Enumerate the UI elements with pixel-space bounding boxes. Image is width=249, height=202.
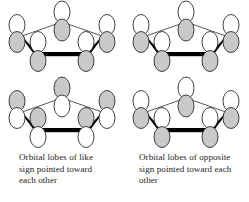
caption-left: Orbital lobes of like sign pointed towar…	[19, 152, 131, 187]
diagram-grid	[0, 0, 249, 158]
lobe-apex-lower	[54, 95, 70, 117]
caption-left-line2: sign pointed toward	[19, 164, 131, 176]
lobe-ll-lower	[30, 127, 46, 148]
lobe-ul-lower	[133, 32, 149, 53]
lobe-ll-upper	[154, 32, 170, 53]
lobe-apex-lower	[178, 95, 194, 117]
lobe-lr-upper	[78, 108, 94, 129]
orbital-upper-left	[9, 15, 25, 53]
lobe-ll-lower	[154, 127, 170, 148]
caption-left-line3: each other	[19, 175, 131, 187]
orbital-upper-right	[99, 15, 115, 53]
caption-right-line2: sign pointed toward each	[139, 164, 249, 176]
caption-right-line1: Orbital lobes of opposite	[139, 152, 249, 164]
lobe-apex-lower	[178, 19, 194, 41]
orbital-upper-left	[133, 15, 149, 53]
lobe-ll-upper	[154, 108, 170, 129]
orbital-upper-left	[133, 91, 149, 129]
caption-right-line3: other	[139, 175, 249, 187]
orbital-apex	[178, 77, 194, 117]
lobe-ll-lower	[30, 51, 46, 72]
lobe-ul-lower	[133, 108, 149, 129]
diagram-top-left	[0, 0, 124, 75]
lobe-ur-lower	[223, 108, 239, 129]
orbital-apex	[178, 1, 194, 41]
captions-row: Orbital lobes of like sign pointed towar…	[0, 152, 249, 202]
lobe-ur-lower	[99, 108, 115, 129]
orbital-upper-left	[9, 91, 25, 129]
diagram-bottom-left	[0, 72, 124, 151]
caption-left-line1: Orbital lobes of like	[19, 152, 131, 164]
lobe-ll-lower	[154, 51, 170, 72]
orbital-upper-right	[99, 91, 115, 129]
lobe-lr-upper	[202, 108, 218, 129]
figure-root: Orbital lobes of like sign pointed towar…	[0, 0, 249, 202]
orbital-apex	[54, 77, 70, 117]
lobe-lr-lower	[78, 51, 94, 72]
lobe-ur-lower	[99, 32, 115, 53]
orbital-upper-right	[223, 15, 239, 53]
lobe-ul-lower	[9, 108, 25, 129]
lobe-ll-upper	[30, 32, 46, 53]
lobe-lr-lower	[78, 127, 94, 148]
lobe-apex-lower	[54, 19, 70, 41]
lobe-ur-lower	[223, 32, 239, 53]
lobe-ll-upper	[30, 108, 46, 129]
diagram-bottom-right	[124, 72, 248, 151]
lobe-lr-lower	[202, 127, 218, 148]
lobe-ul-lower	[9, 32, 25, 53]
lobe-lr-upper	[202, 32, 218, 53]
orbital-apex	[54, 1, 70, 41]
diagram-top-right	[124, 0, 248, 75]
caption-right: Orbital lobes of opposite sign pointed t…	[139, 152, 249, 187]
lobe-lr-upper	[78, 32, 94, 53]
lobe-lr-lower	[202, 51, 218, 72]
orbital-upper-right	[223, 91, 239, 129]
